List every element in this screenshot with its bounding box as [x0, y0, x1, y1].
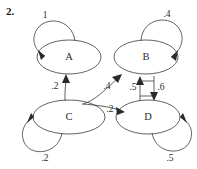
edge-c-to-a — [62, 74, 70, 101]
edge-label-c-b: .4 — [103, 81, 110, 91]
state-label-b: B — [142, 51, 149, 62]
edge-label-c-c: .2 — [41, 153, 48, 163]
edge-d-to-b — [136, 76, 144, 101]
edge-label-b-b: .4 — [163, 9, 170, 19]
edge-label-c-d: .2 — [106, 104, 113, 114]
state-label-c: C — [65, 111, 72, 122]
edge-label-d-d: .5 — [166, 153, 173, 163]
self-loop-c — [22, 113, 62, 152]
edge-d-to-b-arrowhead — [136, 76, 144, 85]
self-loop-d-path — [152, 117, 192, 151]
state-label-d: D — [144, 111, 152, 122]
state-label-a: A — [65, 51, 73, 62]
edge-c-to-a-arrowhead — [62, 74, 70, 83]
self-loop-d-arrowhead — [180, 113, 187, 123]
diagram-page: 2. — [0, 0, 197, 169]
edge-b-to-d-arrowhead — [150, 92, 158, 101]
self-loop-d — [152, 113, 192, 151]
markov-chain-diagram: A B C D 1 .4 .2 .5 .2 .4 .2 .5 .6 — [0, 0, 197, 169]
self-loop-b-arrowhead — [171, 50, 178, 61]
edge-label-d-b: .5 — [129, 82, 136, 92]
edge-label-b-d: .6 — [157, 82, 164, 92]
edge-label-a-a: 1 — [43, 10, 48, 20]
self-loop-c-path — [22, 117, 62, 152]
edge-c-to-d — [82, 104, 125, 115]
edge-c-to-b-path — [83, 78, 118, 104]
edge-label-c-a: .2 — [51, 81, 58, 91]
